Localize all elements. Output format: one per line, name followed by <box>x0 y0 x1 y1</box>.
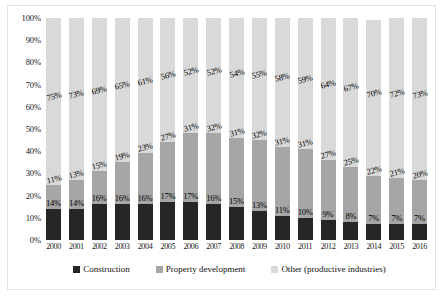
chart-frame: 100%90%80%70%60%50%40%30%20%10%0% 75%11%… <box>7 5 436 290</box>
legend-swatch-icon <box>271 266 278 273</box>
legend-item[interactable]: Construction <box>73 264 130 274</box>
bar-segment-construction <box>92 204 107 240</box>
bar-group: 75%11%14%73%13%14%69%15%16%65%19%16%61%2… <box>46 18 427 240</box>
y-axis-tick: 30% <box>26 168 41 178</box>
x-axis-tick: 2012 <box>321 242 336 256</box>
plot-area: 75%11%14%73%13%14%69%15%16%65%19%16%61%2… <box>46 18 427 240</box>
x-axis-tick: 2011 <box>298 242 313 256</box>
x-axis-tick: 2002 <box>92 242 107 256</box>
bar-segment-construction <box>183 202 198 240</box>
bar-label-construction: 7% <box>414 213 425 223</box>
bar-column[interactable]: 55%32%13% <box>252 18 267 240</box>
bar-label-construction: 14% <box>46 198 61 208</box>
y-axis-tick: 60% <box>26 102 41 112</box>
bar-column[interactable]: 73%20%7% <box>412 18 427 240</box>
bar-segment-construction <box>252 211 267 240</box>
legend-swatch-icon <box>156 266 163 273</box>
bar-column[interactable]: 67%25%8% <box>343 18 358 240</box>
x-axis-tick: 2005 <box>160 242 175 256</box>
bar-label-construction: 16% <box>92 193 107 203</box>
bar-column[interactable]: 75%11%14% <box>46 18 61 240</box>
bar-segment-construction <box>275 216 290 240</box>
bar-label-construction: 16% <box>138 193 153 203</box>
bar-column[interactable]: 70%22%7% <box>366 18 381 240</box>
y-axis-tick: 70% <box>26 80 41 90</box>
bar-column[interactable]: 52%31%17% <box>183 18 198 240</box>
bar-column[interactable]: 54%31%15% <box>229 18 244 240</box>
bar-label-construction: 17% <box>183 191 198 201</box>
x-axis-tick: 2000 <box>46 242 61 256</box>
bar-label-construction: 17% <box>160 191 175 201</box>
bar-label-construction: 16% <box>206 193 221 203</box>
bar-segment-construction <box>321 220 336 240</box>
bar-label-construction: 11% <box>275 205 290 215</box>
legend-label: Construction <box>83 264 130 274</box>
x-axis-tick: 2010 <box>275 242 290 256</box>
bar-column[interactable]: 59%31%10% <box>298 18 313 240</box>
bar-segment-construction <box>229 207 244 240</box>
bar-column[interactable]: 65%19%16% <box>115 18 130 240</box>
bar-segment-construction <box>206 204 221 240</box>
x-axis-tick: 2003 <box>115 242 130 256</box>
legend-item[interactable]: Other (productive industries) <box>271 264 385 274</box>
y-axis-tick: 0% <box>30 235 41 245</box>
legend-label: Property development <box>166 264 246 274</box>
bar-segment-construction <box>298 218 313 240</box>
bar-column[interactable]: 72%21%7% <box>389 18 404 240</box>
bar-label-construction: 16% <box>115 193 130 203</box>
bar-segment-construction <box>160 202 175 240</box>
bar-label-construction: 13% <box>252 200 267 210</box>
y-axis-tick: 100% <box>22 13 41 23</box>
bar-segment-construction <box>46 209 61 240</box>
legend-label: Other (productive industries) <box>281 264 385 274</box>
bar-segment-construction <box>343 222 358 240</box>
x-axis-tick: 2016 <box>412 242 427 256</box>
x-axis-tick: 2004 <box>138 242 153 256</box>
x-axis-tick: 2006 <box>183 242 198 256</box>
bar-column[interactable]: 56%27%17% <box>160 18 175 240</box>
y-axis-tick: 80% <box>26 57 41 67</box>
y-axis-tick: 50% <box>26 124 41 134</box>
bar-column[interactable]: 69%15%16% <box>92 18 107 240</box>
x-axis: 2000200120022003200420052006200720082009… <box>46 242 427 256</box>
bar-label-construction: 8% <box>345 211 356 221</box>
y-axis-tick: 10% <box>26 213 41 223</box>
bar-segment-construction <box>115 204 130 240</box>
bar-segment-construction <box>69 209 84 240</box>
bar-label-construction: 9% <box>323 209 334 219</box>
bar-label-construction: 14% <box>69 198 84 208</box>
bar-column[interactable]: 58%31%11% <box>275 18 290 240</box>
x-axis-tick: 2014 <box>366 242 381 256</box>
bar-column[interactable]: 52%32%16% <box>206 18 221 240</box>
x-axis-tick: 2015 <box>389 242 404 256</box>
x-axis-tick: 2008 <box>229 242 244 256</box>
bar-label-construction: 15% <box>229 196 244 206</box>
bar-label-construction: 10% <box>298 207 313 217</box>
bar-column[interactable]: 73%13%14% <box>69 18 84 240</box>
bar-segment-construction <box>412 224 427 240</box>
bar-segment-construction <box>389 224 404 240</box>
y-axis-tick: 20% <box>26 191 41 201</box>
legend-item[interactable]: Property development <box>156 264 246 274</box>
x-axis-tick: 2001 <box>69 242 84 256</box>
y-axis-tick: 90% <box>26 35 41 45</box>
bar-segment-construction <box>138 204 153 240</box>
bar-column[interactable]: 61%23%16% <box>138 18 153 240</box>
x-axis-tick: 2013 <box>343 242 358 256</box>
bar-label-construction: 7% <box>368 213 379 223</box>
y-axis-tick: 40% <box>26 146 41 156</box>
bar-column[interactable]: 64%27%9% <box>321 18 336 240</box>
x-axis-tick: 2009 <box>252 242 267 256</box>
y-axis: 100%90%80%70%60%50%40%30%20%10%0% <box>8 18 44 240</box>
x-axis-tick: 2007 <box>206 242 221 256</box>
bar-segment-construction <box>366 224 381 240</box>
chart-legend: ConstructionProperty developmentOther (p… <box>15 264 443 274</box>
bar-label-construction: 7% <box>391 213 402 223</box>
legend-swatch-icon <box>73 266 80 273</box>
